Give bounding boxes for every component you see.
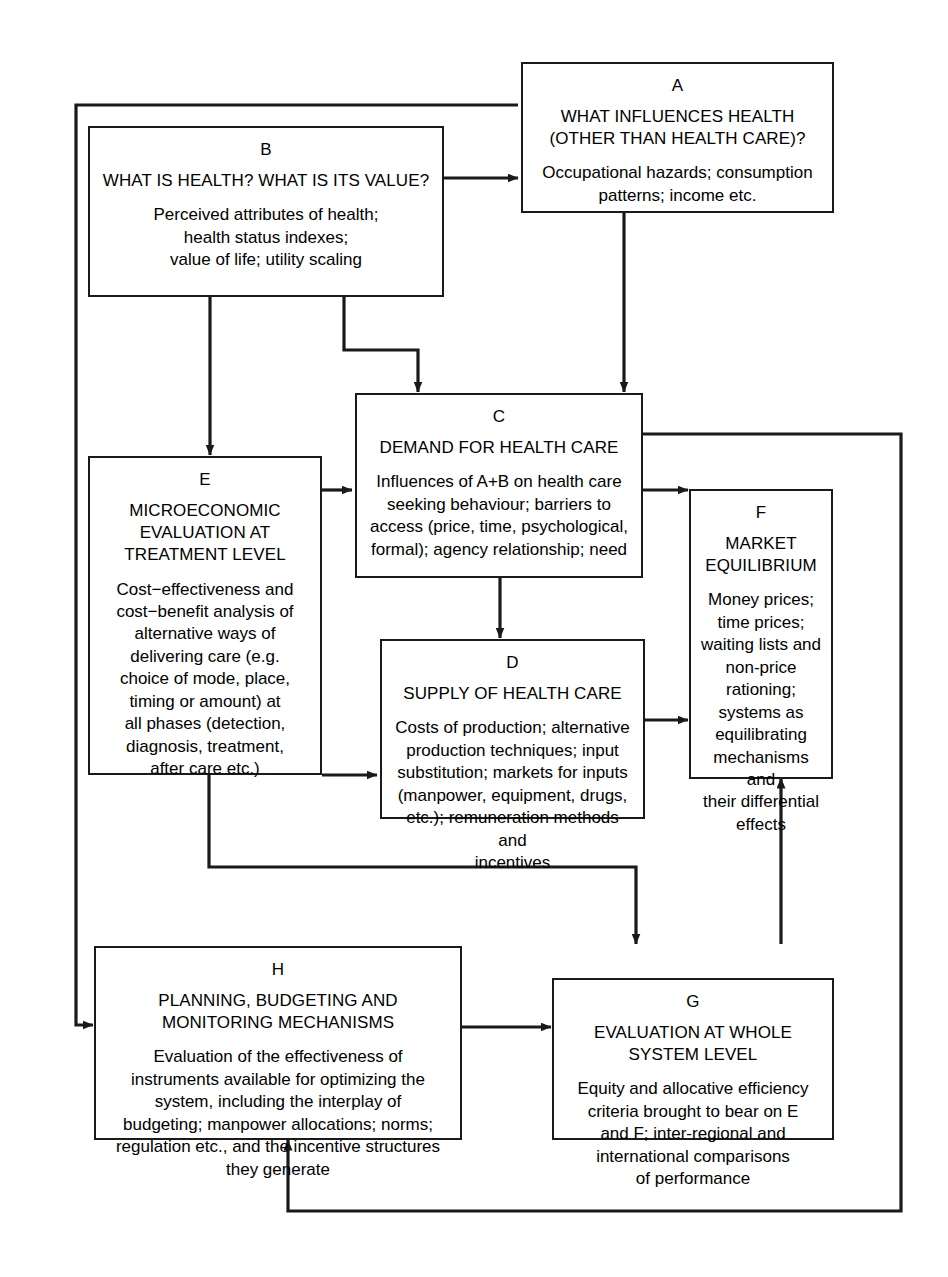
node-box-a[interactable]: A WHAT INFLUENCES HEALTH (OTHER THAN HEA… — [521, 62, 834, 213]
node-e-id: E — [199, 469, 211, 490]
node-c-title: DEMAND FOR HEALTH CARE — [380, 437, 619, 459]
node-h-body: Evaluation of the effectiveness of instr… — [116, 1046, 440, 1181]
node-d-body: Costs of production; alternative product… — [390, 717, 635, 874]
node-b-title: WHAT IS HEALTH? WHAT IS ITS VALUE? — [103, 170, 429, 192]
node-e-body: Cost−effectiveness and cost−benefit anal… — [116, 579, 293, 781]
node-g-id: G — [686, 991, 699, 1012]
diagram-canvas: A WHAT INFLUENCES HEALTH (OTHER THAN HEA… — [0, 0, 948, 1277]
node-a-id: A — [672, 75, 684, 96]
node-a-body: Occupational hazards; consumption patter… — [542, 162, 812, 207]
node-box-g[interactable]: G EVALUATION AT WHOLE SYSTEM LEVEL Equit… — [552, 978, 834, 1140]
node-b-body: Perceived attributes of health; health s… — [154, 204, 379, 271]
node-g-title: EVALUATION AT WHOLE SYSTEM LEVEL — [594, 1022, 792, 1066]
node-box-e[interactable]: E MICROECONOMIC EVALUATION AT TREATMENT … — [88, 456, 322, 775]
node-e-title: MICROECONOMIC EVALUATION AT TREATMENT LE… — [124, 500, 285, 566]
node-h-id: H — [272, 959, 284, 980]
node-f-id: F — [756, 502, 767, 523]
node-box-h[interactable]: H PLANNING, BUDGETING AND MONITORING MEC… — [94, 946, 462, 1140]
node-f-body: Money prices; time prices; waiting lists… — [699, 589, 823, 836]
node-d-id: D — [506, 652, 518, 673]
node-box-c[interactable]: C DEMAND FOR HEALTH CARE Influences of A… — [355, 393, 643, 578]
node-f-title: MARKET EQUILIBRIUM — [705, 533, 817, 577]
node-box-f[interactable]: F MARKET EQUILIBRIUM Money prices; time … — [689, 489, 833, 779]
node-g-body: Equity and allocative efficiency criteri… — [577, 1078, 808, 1190]
node-c-body: Influences of A+B on health care seeking… — [370, 471, 628, 561]
node-box-d[interactable]: D SUPPLY OF HEALTH CARE Costs of product… — [380, 639, 645, 819]
node-a-title: WHAT INFLUENCES HEALTH (OTHER THAN HEALT… — [550, 106, 806, 150]
node-d-title: SUPPLY OF HEALTH CARE — [403, 683, 621, 705]
node-box-b[interactable]: B WHAT IS HEALTH? WHAT IS ITS VALUE? Per… — [88, 126, 444, 297]
connector-b-to-c — [344, 297, 418, 392]
node-h-title: PLANNING, BUDGETING AND MONITORING MECHA… — [158, 990, 397, 1034]
node-c-id: C — [493, 406, 505, 427]
node-b-id: B — [260, 139, 272, 160]
